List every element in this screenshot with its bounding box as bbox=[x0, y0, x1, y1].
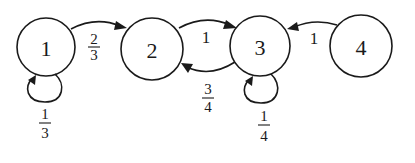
edge-2-to-3-label: 1 bbox=[202, 28, 211, 47]
self-loop-1-label-numerator: 1 bbox=[41, 106, 49, 122]
arrow-head-icon bbox=[223, 20, 237, 29]
node-4: 4 bbox=[330, 15, 392, 77]
edge-4-to-3-label: 1 bbox=[310, 29, 319, 48]
edge-1-to-2-path bbox=[71, 22, 120, 29]
self-loop-3-label-numerator: 1 bbox=[260, 108, 268, 124]
edge-1-to-2: 2 3 bbox=[71, 21, 127, 63]
edge-1-to-2-label-denominator: 3 bbox=[90, 47, 98, 63]
arrow-head-icon bbox=[287, 22, 299, 31]
markov-chain-diagram: 1 2 3 4 2 3 1 3 4 1 bbox=[0, 0, 415, 163]
edge-4-to-3-path bbox=[294, 22, 337, 27]
node-2: 2 bbox=[121, 18, 183, 80]
arrow-head-icon bbox=[114, 21, 127, 30]
edge-2-to-3-path bbox=[179, 20, 230, 28]
edge-3-to-2-label-denominator: 4 bbox=[204, 99, 212, 115]
node-3: 3 bbox=[230, 16, 290, 76]
edge-3-to-2-path bbox=[187, 62, 235, 71]
edge-3-to-2-label-numerator: 3 bbox=[204, 81, 212, 97]
edge-2-to-3: 1 bbox=[179, 20, 237, 47]
self-loop-1: 1 3 bbox=[28, 74, 62, 141]
self-loop-3-label-denominator: 4 bbox=[260, 128, 268, 144]
self-loop-1-label-denominator: 3 bbox=[41, 125, 49, 141]
edge-1-to-2-label-numerator: 2 bbox=[90, 31, 98, 47]
node-1-label: 1 bbox=[41, 36, 52, 61]
self-loop-3: 1 4 bbox=[244, 74, 277, 144]
node-3-label: 3 bbox=[255, 35, 266, 60]
node-4-label: 4 bbox=[356, 35, 367, 60]
node-2-label: 2 bbox=[147, 38, 158, 63]
node-1: 1 bbox=[17, 18, 75, 76]
edge-3-to-2: 3 4 bbox=[181, 62, 235, 115]
